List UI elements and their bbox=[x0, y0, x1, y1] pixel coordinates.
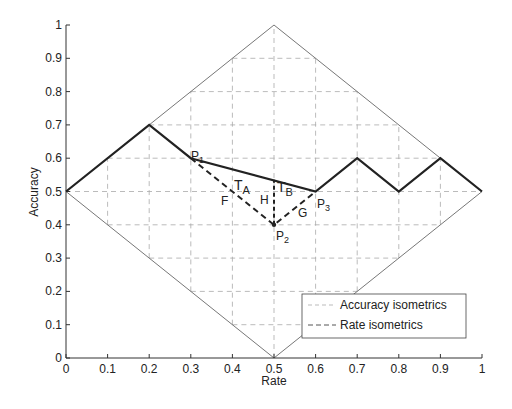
y-tick-label: 0.2 bbox=[45, 284, 62, 298]
y-tick-label: 0 bbox=[55, 351, 62, 365]
y-tick-label: 0.6 bbox=[45, 151, 62, 165]
y-axis-label: Accuracy bbox=[27, 167, 41, 216]
label-p3: P3 bbox=[317, 197, 330, 213]
p2-marker bbox=[272, 223, 276, 227]
x-tick-label: 0.8 bbox=[390, 362, 407, 376]
label-p2: P2 bbox=[276, 229, 289, 245]
legend-rate-label: Rate isometrics bbox=[340, 318, 423, 332]
x-tick-label: 0.6 bbox=[307, 362, 324, 376]
chart: 00.10.20.30.40.50.60.70.80.91 00.10.20.3… bbox=[0, 0, 512, 409]
label-g: G bbox=[298, 206, 307, 220]
y-tick-label: 0.7 bbox=[45, 118, 62, 132]
x-tick-label: 0.7 bbox=[349, 362, 366, 376]
x-tick-label: 0.4 bbox=[224, 362, 241, 376]
legend: Accuracy isometrics Rate isometrics bbox=[302, 294, 466, 338]
x-tick-label: 0.1 bbox=[99, 362, 116, 376]
x-tick-label: 1 bbox=[479, 362, 486, 376]
x-tick-label: 0.3 bbox=[182, 362, 199, 376]
x-tick-label: 0.9 bbox=[432, 362, 449, 376]
label-f: F bbox=[221, 194, 228, 208]
y-tick-label: 0.9 bbox=[45, 51, 62, 65]
x-tick-label: 0.2 bbox=[141, 362, 158, 376]
x-axis-label: Rate bbox=[261, 374, 287, 388]
x-tick-label: 0 bbox=[63, 362, 70, 376]
dashed-path-via-p2 bbox=[191, 158, 316, 225]
label-p1: P1 bbox=[191, 149, 204, 165]
y-tick-label: 0.3 bbox=[45, 251, 62, 265]
x-ticks: 00.10.20.30.40.50.60.70.80.91 bbox=[63, 354, 486, 376]
y-tick-label: 0.4 bbox=[45, 218, 62, 232]
y-tick-label: 1 bbox=[55, 18, 62, 32]
label-h: H bbox=[260, 193, 269, 207]
label-tb: TB bbox=[277, 179, 293, 198]
y-tick-label: 0.1 bbox=[45, 318, 62, 332]
y-tick-label: 0.5 bbox=[45, 185, 62, 199]
y-tick-label: 0.8 bbox=[45, 85, 62, 99]
legend-accuracy-label: Accuracy isometrics bbox=[340, 298, 447, 312]
label-ta: TA bbox=[234, 177, 251, 196]
